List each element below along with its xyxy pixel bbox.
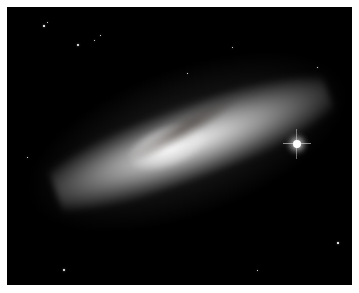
star: [232, 47, 233, 48]
star: [100, 35, 101, 36]
star: [187, 73, 188, 74]
star: [27, 157, 28, 158]
star: [337, 242, 339, 244]
star: [94, 40, 95, 41]
star: [317, 67, 318, 68]
galaxy-photo: [7, 7, 352, 285]
star: [63, 269, 65, 271]
star: [77, 44, 79, 46]
star: [257, 270, 258, 271]
star: [47, 22, 48, 23]
bright-foreground-star: [293, 140, 301, 148]
star: [43, 25, 45, 27]
